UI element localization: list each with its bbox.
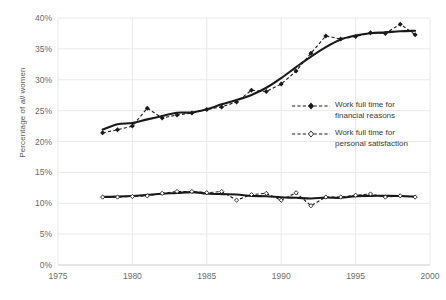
legend: Work full time for financial reasons Wor… xyxy=(292,100,442,156)
data-point-marker xyxy=(398,194,402,198)
legend-marker-open-diamond-icon xyxy=(292,129,330,139)
legend-label-satisfaction-line1: Work full time for xyxy=(335,128,408,139)
series-personal-satisfaction xyxy=(101,189,418,207)
data-point-marker xyxy=(264,191,268,195)
legend-label-financial-line1: Work full time for xyxy=(335,100,395,111)
data-point-marker xyxy=(234,198,238,202)
legend-label-financial: Work full time for financial reasons xyxy=(335,100,395,121)
data-point-marker xyxy=(368,30,373,35)
legend-item-financial[interactable]: Work full time for financial reasons xyxy=(292,100,442,121)
data-point-marker xyxy=(101,195,105,199)
data-point-marker xyxy=(279,198,283,202)
data-point-marker xyxy=(115,127,120,132)
data-point-marker xyxy=(398,22,403,27)
legend-label-satisfaction-line2: personal satisfaction xyxy=(335,139,408,150)
chart-container: Percentage of all women 0%5%10%15%20%25%… xyxy=(0,0,446,300)
legend-item-satisfaction[interactable]: Work full time for personal satisfaction xyxy=(292,128,442,149)
legend-label-financial-line2: financial reasons xyxy=(335,111,395,122)
data-point-marker xyxy=(100,130,105,135)
legend-label-satisfaction: Work full time for personal satisfaction xyxy=(335,128,408,149)
data-point-marker xyxy=(204,107,209,112)
legend-marker-filled-diamond-icon xyxy=(292,101,330,111)
